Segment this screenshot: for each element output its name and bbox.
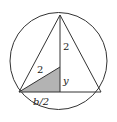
label-half-base: b/2 xyxy=(33,96,49,107)
label-radius-slant: 2 xyxy=(37,64,43,75)
label-radius-upper: 2 xyxy=(63,41,69,52)
circumcircle xyxy=(10,13,107,110)
inscribed-triangle-diagram: 2 2 y b/2 xyxy=(0,0,117,122)
label-y: y xyxy=(62,75,69,86)
